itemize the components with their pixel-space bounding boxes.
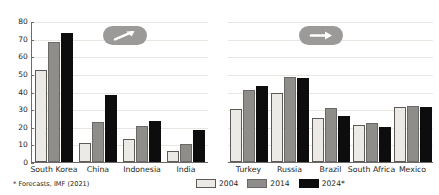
x-axis-label: Brazil <box>320 165 342 174</box>
y-tick-label-40: 40 <box>18 89 28 97</box>
bar <box>407 106 419 162</box>
legend-swatch <box>196 179 216 188</box>
y-tick-label-0: 0 <box>23 159 28 167</box>
bar <box>243 90 255 162</box>
bar <box>297 78 309 162</box>
y-tick-mark-80 <box>31 22 34 23</box>
y-tick-mark-70 <box>31 40 34 41</box>
bar <box>379 127 391 162</box>
bar <box>325 108 337 162</box>
bar <box>35 70 47 162</box>
legend-label: 2004 <box>219 179 238 188</box>
bar <box>271 93 283 162</box>
bar <box>193 130 205 162</box>
bar <box>48 42 60 162</box>
bar <box>123 139 135 162</box>
x-axis-label: South Korea <box>30 165 77 174</box>
legend-item[interactable]: 2004 <box>196 179 243 188</box>
bar-group <box>392 22 433 162</box>
y-tick-label-50: 50 <box>18 71 28 79</box>
bar <box>312 118 324 162</box>
x-axis-labels-left: South KoreaChinaIndonesiaIndia <box>32 165 208 177</box>
y-tick-label-70: 70 <box>18 36 28 44</box>
bar <box>394 107 406 162</box>
y-tick-mark-40 <box>31 93 34 94</box>
bar <box>353 125 365 162</box>
y-tick-label-60: 60 <box>18 54 28 62</box>
x-axis-baseline-right <box>228 162 433 163</box>
bar <box>180 144 192 163</box>
legend-swatch <box>299 179 319 188</box>
bar-group <box>164 22 208 162</box>
bar <box>61 33 73 162</box>
y-tick-mark-20 <box>31 128 34 129</box>
arrow-right-icon <box>299 26 343 45</box>
bar <box>420 107 432 162</box>
legend-item[interactable]: 2024* <box>299 179 350 188</box>
bar <box>256 86 268 162</box>
chart-legend: 200420142024* <box>196 179 350 188</box>
legend-label: 2014 <box>270 179 289 188</box>
bar <box>230 109 242 162</box>
y-tick-mark-50 <box>31 75 34 76</box>
chart-footnote: * Forecasts, IMF (2021) <box>13 180 89 188</box>
y-tick-label-80: 80 <box>18 18 28 26</box>
bar <box>149 121 161 162</box>
bar <box>79 143 91 162</box>
x-axis-label: Mexico <box>399 165 426 174</box>
bar <box>136 126 148 162</box>
y-tick-label-30: 30 <box>18 106 28 114</box>
x-axis-labels-right: TurkeyRussiaBrazilSouth AfricaMexico <box>228 165 433 177</box>
y-tick-label-20: 20 <box>18 124 28 132</box>
arrow-up-right-icon <box>103 26 147 45</box>
bar <box>366 123 378 162</box>
bar <box>338 116 350 162</box>
bar <box>105 95 117 162</box>
x-axis-label: China <box>87 165 109 174</box>
bar-group <box>351 22 392 162</box>
bar-group <box>228 22 269 162</box>
bar <box>92 122 104 162</box>
y-tick-mark-10 <box>31 145 34 146</box>
legend-item[interactable]: 2014 <box>247 179 294 188</box>
x-axis-label: Russia <box>277 165 302 174</box>
legend-swatch <box>247 179 267 188</box>
grouped-bar-chart: 01020304050607080 South KoreaChinaIndone… <box>0 0 439 195</box>
bar <box>284 77 296 162</box>
y-tick-mark-60 <box>31 57 34 58</box>
x-axis-baseline-left <box>32 162 208 163</box>
x-axis-label: South Africa <box>348 165 395 174</box>
x-axis-label: Indonesia <box>123 165 161 174</box>
legend-label: 2024* <box>322 179 345 188</box>
y-tick-mark-0 <box>31 163 34 164</box>
y-axis-tick-labels: 01020304050607080 <box>0 22 28 163</box>
x-axis-label: India <box>176 165 195 174</box>
x-axis-label: Turkey <box>236 165 261 174</box>
bar-group <box>32 22 76 162</box>
y-tick-mark-30 <box>31 110 34 111</box>
y-tick-label-10: 10 <box>18 142 28 150</box>
bar <box>167 151 179 162</box>
